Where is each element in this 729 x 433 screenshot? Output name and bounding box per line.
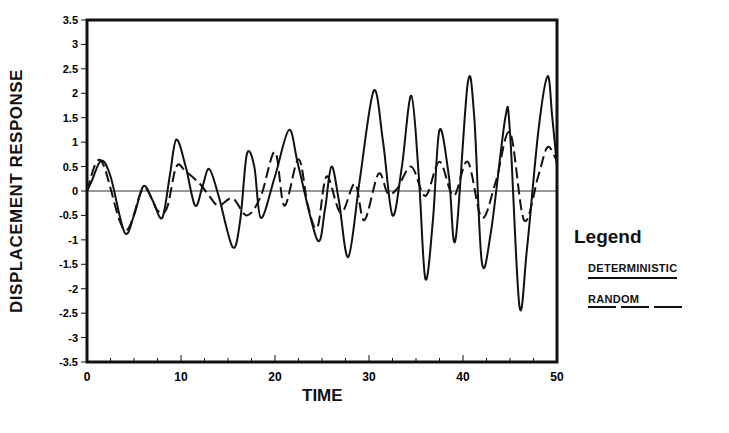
- y-tick-label: 2: [72, 87, 78, 99]
- random-series-line: [87, 132, 557, 231]
- y-tick-label: 2.5: [63, 63, 78, 75]
- y-tick-label: -2: [68, 283, 78, 295]
- legend-title: Legend: [574, 226, 677, 248]
- y-tick-label: -1.5: [59, 258, 78, 270]
- legend-item-random-label: RANDOM: [588, 293, 639, 305]
- x-tick-label: 10: [174, 370, 188, 384]
- chart-canvas: 3.532.521.510.50-0.5-1-1.5-2-2.5-3-3.5 0…: [0, 0, 729, 433]
- dashed-line-swatch-icon: [588, 306, 687, 308]
- y-axis-label: DISPLACEMENT RESPONSE: [2, 20, 32, 362]
- legend-item-random: RANDOM: [588, 293, 639, 308]
- x-tick-label: 0: [84, 370, 91, 384]
- y-tick-label: 0: [72, 185, 78, 197]
- y-axis-ticks: 3.532.521.510.50-0.5-1-1.5-2-2.5-3-3.5: [59, 14, 87, 368]
- x-axis-ticks: 01020304050: [84, 355, 564, 384]
- y-axis-label-text: DISPLACEMENT RESPONSE: [7, 69, 27, 313]
- x-tick-label: 40: [456, 370, 470, 384]
- y-tick-label: -3.5: [59, 356, 78, 368]
- y-tick-label: -3: [68, 332, 78, 344]
- y-tick-label: 3: [72, 38, 78, 50]
- x-tick-label: 50: [550, 370, 564, 384]
- legend: Legend DETERMINISTIC RANDOM: [574, 226, 677, 318]
- y-tick-label: -2.5: [59, 307, 78, 319]
- y-tick-label: 1: [72, 136, 78, 148]
- y-tick-label: 1.5: [63, 112, 78, 124]
- legend-item-deterministic: DETERMINISTIC: [588, 262, 677, 279]
- x-tick-label: 20: [268, 370, 282, 384]
- y-tick-label: 3.5: [63, 14, 78, 26]
- y-tick-label: -0.5: [59, 209, 78, 221]
- x-axis-label: TIME: [302, 386, 343, 406]
- y-tick-label: 0.5: [63, 161, 78, 173]
- y-tick-label: -1: [68, 234, 78, 246]
- x-tick-label: 30: [362, 370, 376, 384]
